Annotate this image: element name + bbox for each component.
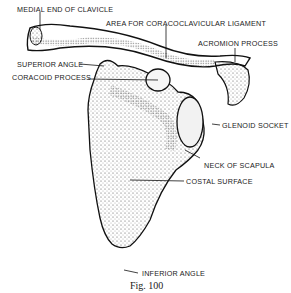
anatomy-figure: MEDIAL END OF CLAVICLE AREA FOR CORACOCL…	[0, 0, 291, 293]
label-coracoid-process: CORACOID PROCESS	[12, 74, 91, 81]
label-superior-angle: SUPERIOR ANGLE	[17, 61, 83, 68]
label-acromion-process: ACROMION PROCESS	[198, 40, 278, 47]
label-glenoid-socket: GLENOID SOCKET	[222, 122, 289, 129]
label-costal-surface: COSTAL SURFACE	[186, 178, 253, 185]
glenoid-socket-shape	[177, 97, 203, 147]
label-inferior-angle: INFERIOR ANGLE	[142, 270, 205, 277]
scapula	[88, 60, 249, 247]
label-neck-of-scapula: NECK OF SCAPULA	[204, 162, 275, 169]
label-area-for-coracoclavicular-ligament: AREA FOR CORACOCLAVICULAR LIGAMENT	[106, 20, 266, 27]
label-medial-end-of-clavicle: MEDIAL END OF CLAVICLE	[17, 6, 113, 13]
figure-caption: Fig. 100	[130, 280, 163, 291]
